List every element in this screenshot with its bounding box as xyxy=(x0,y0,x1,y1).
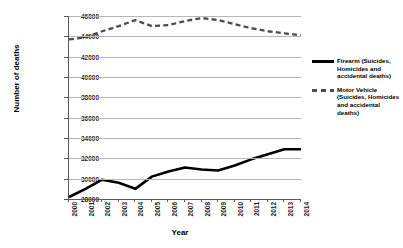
x-tick-label: 2010 xyxy=(237,202,244,216)
x-tick-label: 2014 xyxy=(303,202,310,216)
series-lines xyxy=(69,16,301,200)
legend-item-motor-vehicle: Motor Vehicle (Suicides, Homicides and a… xyxy=(312,86,400,116)
x-tick-label: 2012 xyxy=(270,202,277,216)
x-tick-label: 2011 xyxy=(253,202,260,216)
x-axis-title: Year xyxy=(120,228,240,237)
x-tick-label: 2004 xyxy=(137,202,144,216)
x-tick-label: 2000 xyxy=(71,202,78,216)
x-tick-mark xyxy=(267,199,268,202)
x-tick-label: 2009 xyxy=(220,202,227,216)
x-tick-mark xyxy=(68,199,69,202)
x-tick-label: 2013 xyxy=(287,202,294,216)
x-tick-mark xyxy=(118,199,119,202)
series-line-firearm xyxy=(69,149,301,197)
x-tick-label: 2006 xyxy=(171,202,178,216)
solid-line-swatch xyxy=(312,57,334,66)
x-tick-label: 2007 xyxy=(187,202,194,216)
gridline xyxy=(69,179,301,180)
x-tick-mark xyxy=(151,199,152,202)
x-tick-mark xyxy=(250,199,251,202)
x-tick-mark xyxy=(283,199,284,202)
x-tick-mark xyxy=(217,199,218,202)
x-tick-mark xyxy=(184,199,185,202)
x-tick-mark xyxy=(167,199,168,202)
chart-legend: Firearm (Suicides, Homicides and acciden… xyxy=(312,57,400,122)
gridline xyxy=(69,158,301,159)
gridline xyxy=(69,118,301,119)
gridline xyxy=(69,138,301,139)
dashed-line-swatch xyxy=(312,86,334,95)
x-tick-label: 2001 xyxy=(88,202,95,216)
x-tick-mark xyxy=(234,199,235,202)
x-tick-mark xyxy=(300,199,301,202)
x-tick-label: 2002 xyxy=(104,202,111,216)
legend-label-motor-vehicle: Motor Vehicle (Suicides, Homicides and a… xyxy=(337,86,400,116)
y-axis-title: Number of deaths xyxy=(12,19,21,139)
x-tick-label: 2003 xyxy=(121,202,128,216)
line-chart: Number of deaths Year 280003000032000340… xyxy=(0,0,403,248)
gridline xyxy=(69,77,301,78)
legend-item-firearm: Firearm (Suicides, Homicides and acciden… xyxy=(312,57,400,80)
x-tick-mark xyxy=(101,199,102,202)
gridline xyxy=(69,57,301,58)
x-tick-mark xyxy=(85,199,86,202)
legend-label-firearm: Firearm (Suicides, Homicides and acciden… xyxy=(337,57,400,80)
x-tick-mark xyxy=(134,199,135,202)
gridline xyxy=(69,97,301,98)
x-tick-label: 2005 xyxy=(154,202,161,216)
plot-area xyxy=(68,16,300,200)
gridline xyxy=(69,16,301,17)
x-tick-label: 2008 xyxy=(204,202,211,216)
x-tick-mark xyxy=(201,199,202,202)
gridline xyxy=(69,36,301,37)
